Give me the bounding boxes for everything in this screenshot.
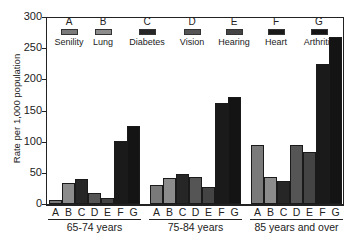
bar-letter-label: B [62,207,75,218]
legend-item-lung: BLung [81,17,125,47]
legend-name: Hearing [218,37,250,47]
bar-e [101,198,114,204]
legend-letter: B [81,17,125,27]
legend-swatch [311,29,328,35]
bar-letter-label: F [316,207,329,218]
bar-letter-label: B [264,207,277,218]
legend-item-heart: FHeart [254,17,298,47]
bar-letter-label: A [150,207,163,218]
bar-letter-label: C [176,207,189,218]
legend-name: Senility [54,37,83,47]
legend-name: Heart [265,37,287,47]
bar-c [75,179,88,204]
bar-chart: Rate per 1,000 population 05010015020025… [0,0,359,245]
legend-swatch [226,29,243,35]
bar-b [163,178,176,204]
y-tick [42,79,47,80]
bar-a [150,185,163,204]
bar-letter-label: A [251,207,264,218]
y-tick-label: 200 [0,73,42,84]
bar-a [251,145,264,204]
bar-f [215,103,228,204]
legend-swatch [268,29,285,35]
legend-name: Vision [180,37,204,47]
y-tick-label: 300 [0,11,42,22]
bar-e [202,187,215,204]
y-tick [42,111,47,112]
group-label: 85 years and over [245,221,348,233]
y-tick-label: 0 [0,198,42,209]
legend-letter: C [125,17,169,27]
bar-b [264,177,277,204]
bar-letter-label: E [101,207,114,218]
bar-g [228,97,241,204]
bar-letter-label: D [88,207,101,218]
bar-letter-label: E [202,207,215,218]
legend-swatch [184,29,201,35]
y-tick-label: 150 [0,105,42,116]
group-label: 65-74 years [43,221,146,233]
y-tick [42,204,47,205]
y-tick [42,173,47,174]
bar-letter-label: C [75,207,88,218]
bar-letter-label: D [290,207,303,218]
legend-item-vision: DVision [170,17,214,47]
bar-letter-label: G [127,207,140,218]
bar-letter-label: G [228,207,241,218]
legend-swatch [95,29,112,35]
legend-swatch [139,29,156,35]
bar-f [114,141,127,204]
group-underline [250,219,343,220]
legend-item-hearing: EHearing [212,17,256,47]
legend-letter: E [212,17,256,27]
bar-b [62,183,75,204]
y-tick-label: 250 [0,42,42,53]
group-underline [149,219,242,220]
legend-name: Lung [93,37,113,47]
bar-d [88,193,101,204]
bar-a [49,200,62,204]
bar-d [290,145,303,204]
bar-g [329,37,342,204]
legend-swatch [61,29,78,35]
bar-letter-label: G [329,207,342,218]
y-tick [42,48,47,49]
bar-letter-label: F [114,207,127,218]
bar-letter-label: E [303,207,316,218]
y-tick [42,142,47,143]
y-tick-label: 50 [0,167,42,178]
y-tick-label: 100 [0,136,42,147]
bar-c [277,181,290,204]
legend-letter: F [254,17,298,27]
group-underline [48,219,141,220]
bar-letter-label: D [189,207,202,218]
bar-d [189,177,202,204]
bar-letter-label: F [215,207,228,218]
bar-f [316,64,329,204]
bar-g [127,126,140,204]
bar-letter-label: A [49,207,62,218]
legend-letter: G [297,17,341,27]
legend-name: Diabetes [129,37,165,47]
bar-e [303,152,316,204]
group-label: 75-84 years [144,221,247,233]
bar-letter-label: C [277,207,290,218]
bar-c [176,174,189,204]
legend-letter: D [170,17,214,27]
bar-letter-label: B [163,207,176,218]
legend-item-diabetes: CDiabetes [125,17,169,47]
